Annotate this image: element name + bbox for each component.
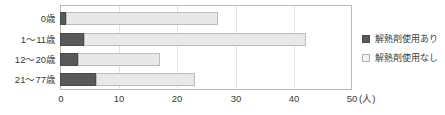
- legend-swatch-icon: [362, 54, 370, 62]
- legend-label: 解熱剤使用あり: [375, 34, 438, 44]
- legend-swatch-icon: [362, 35, 370, 43]
- bar-segment-unused: [78, 53, 160, 66]
- x-axis-tick-label: 0: [58, 92, 63, 106]
- bar-segment-unused: [96, 73, 195, 86]
- legend-item-used: 解熱剤使用あり: [362, 31, 445, 46]
- bar-row: [60, 12, 352, 25]
- bar-row: [60, 73, 352, 86]
- x-axis-labels: 0 10 20 30 40 50 (人): [0, 92, 445, 110]
- bar-segment-used: [60, 33, 84, 46]
- bars-layer: [60, 5, 352, 90]
- x-axis-tick-label: 30: [231, 92, 242, 106]
- y-axis-labels: 0歳 1〜11歳 12〜20歳 21〜77歳: [0, 5, 56, 90]
- bar-segment-unused: [66, 12, 218, 25]
- chart-legend: 解熱剤使用あり 解熱剤使用なし: [362, 31, 445, 69]
- x-axis-tick-label: 40: [289, 92, 300, 106]
- y-axis-tick-label: 12〜20歳: [0, 53, 56, 66]
- y-axis-tick-label: 1〜11歳: [0, 33, 56, 46]
- bar-segment-used: [60, 73, 96, 86]
- x-axis-tick-label: 20: [172, 92, 183, 106]
- stacked-bar-chart: 0歳 1〜11歳 12〜20歳 21〜77歳 0 10 20 30 40 50 …: [0, 0, 445, 115]
- y-axis-tick-label: 0歳: [0, 12, 56, 25]
- bar-row: [60, 33, 352, 46]
- x-axis-tick-label: 10: [114, 92, 125, 106]
- bar-row: [60, 53, 352, 66]
- legend-label: 解熱剤使用なし: [375, 53, 438, 63]
- x-axis-tick-label: 50: [347, 92, 358, 106]
- x-axis-unit-label: (人): [359, 92, 375, 106]
- legend-item-unused: 解熱剤使用なし: [362, 50, 445, 65]
- y-axis-tick-label: 21〜77歳: [0, 73, 56, 86]
- bar-segment-used: [60, 53, 78, 66]
- bar-segment-unused: [84, 33, 306, 46]
